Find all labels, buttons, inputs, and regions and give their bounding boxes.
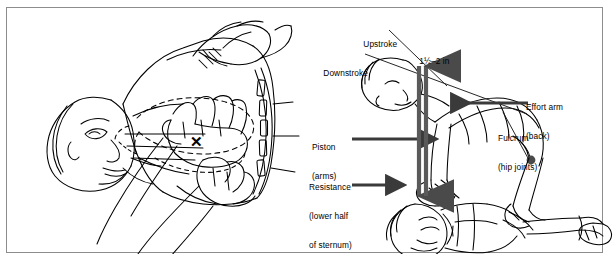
hand-placement-illustration: ✕: [7, 8, 307, 254]
label-resistance: Resistance (lower half of sternum): [309, 164, 352, 262]
label-resistance-line-3: of sternum): [309, 241, 352, 251]
label-compression-depth: 1½–2 in: [405, 47, 449, 76]
label-downstroke: Downstroke: [309, 59, 368, 88]
label-effort-arm-line-1: Effort arm: [526, 103, 563, 113]
hand-placement-panel: ✕: [7, 8, 307, 252]
label-fulcrum-line-1: Fulcrum: [498, 134, 537, 144]
compression-point-x-mark: ✕: [190, 133, 203, 150]
label-upstroke-line-1: Upstroke: [363, 39, 397, 49]
label-resistance-line-1: Resistance: [309, 183, 352, 193]
label-downstroke-line-1: Downstroke: [323, 68, 368, 78]
label-compression-depth-value: 1½–2 in: [419, 56, 449, 66]
label-piston-line-1: Piston: [312, 143, 336, 153]
label-resistance-line-2: (lower half: [309, 212, 352, 222]
label-fulcrum-line-2: (hip joints): [498, 163, 537, 173]
figure-frame: ✕: [6, 7, 603, 253]
label-fulcrum: Fulcrum (hip joints): [498, 115, 537, 192]
label-upstroke: Upstroke: [349, 30, 397, 59]
